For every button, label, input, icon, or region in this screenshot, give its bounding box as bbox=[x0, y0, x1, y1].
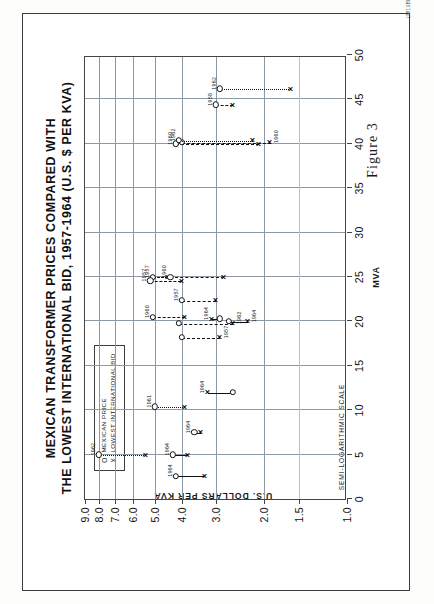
x-tick-label: 0 bbox=[353, 496, 365, 502]
y-tick-label: 7.0 bbox=[109, 507, 121, 537]
y-gridline bbox=[299, 57, 300, 499]
lowest-bid-marker: ✕ bbox=[184, 452, 191, 458]
y-tick bbox=[85, 499, 86, 504]
mexican-price-marker bbox=[178, 297, 184, 303]
lowest-bid-marker: ✕ bbox=[208, 316, 215, 322]
year-label: 1964 bbox=[199, 381, 205, 394]
mexican-price-marker bbox=[173, 473, 179, 479]
x-gridline bbox=[85, 187, 345, 188]
y-tick bbox=[347, 499, 348, 504]
x-gridline bbox=[85, 98, 345, 99]
y-tick-label: 3.0 bbox=[210, 507, 222, 537]
chart-figure: MEXICAN TRANSFORMER PRICES COMPARED WITH… bbox=[42, 14, 392, 562]
x-tick bbox=[347, 54, 352, 55]
legend-label-mexican-price: MEXICAN PRICE bbox=[100, 398, 109, 453]
x-gridline bbox=[85, 232, 345, 233]
y-tick bbox=[99, 499, 100, 504]
legend-circle-icon: O bbox=[100, 457, 109, 464]
x-tick bbox=[347, 143, 352, 144]
year-label: 1957 bbox=[141, 269, 147, 282]
lowest-bid-marker: ✕ bbox=[197, 429, 204, 435]
x-tick bbox=[347, 454, 352, 455]
x-tick-label: 15 bbox=[353, 360, 365, 372]
lowest-bid-marker: ✕ bbox=[249, 137, 256, 143]
x-tick bbox=[347, 232, 352, 233]
y-tick-label: 1.0 bbox=[341, 507, 353, 537]
lowest-bid-marker: ✕ bbox=[287, 86, 294, 92]
year-label: 1957 bbox=[173, 288, 179, 301]
year-label: 1964 bbox=[203, 307, 209, 320]
x-tick-label: 5 bbox=[353, 451, 365, 457]
year-label: 1962 bbox=[211, 77, 217, 90]
figure-page: MEXICAN TRANSFORMER PRICES COMPARED WITH… bbox=[0, 0, 434, 604]
y-tick bbox=[182, 499, 183, 504]
y-tick bbox=[115, 499, 116, 504]
pair-connector bbox=[182, 338, 220, 339]
y-gridline bbox=[264, 57, 265, 499]
x-tick bbox=[347, 409, 352, 410]
lowest-bid-marker: ✕ bbox=[142, 452, 149, 458]
lowest-bid-marker: ✕ bbox=[181, 314, 188, 320]
x-tick-label: 30 bbox=[353, 226, 365, 238]
x-tick-label: 45 bbox=[353, 93, 365, 105]
year-label: 1960 bbox=[144, 305, 150, 318]
legend-label-lowest-bid: LOWEST INTERNATIONAL BID bbox=[109, 353, 118, 452]
plate-code: (281)IBRD-3478 bbox=[406, 0, 411, 18]
y-gridline bbox=[216, 57, 217, 499]
x-tick-label: 10 bbox=[353, 404, 365, 416]
year-label: 1964 bbox=[185, 421, 191, 434]
lowest-bid-marker: ✕ bbox=[212, 297, 219, 303]
x-tick-label: 20 bbox=[353, 315, 365, 327]
x-tick bbox=[347, 365, 352, 366]
y-tick-label: 4.0 bbox=[176, 507, 188, 537]
year-label: 1964 bbox=[167, 464, 173, 477]
mexican-price-marker bbox=[167, 274, 173, 280]
lowest-bid-marker: ✕ bbox=[201, 473, 208, 479]
pair-connector bbox=[179, 324, 233, 325]
y-tick-label: 5.0 bbox=[149, 507, 161, 537]
semilog-note: SEMI-LOGARITHMIC SCALE bbox=[338, 384, 345, 490]
year-label: 1960 bbox=[161, 265, 167, 278]
x-tick bbox=[347, 320, 352, 321]
year-label: 1962 bbox=[170, 128, 176, 141]
y-tick bbox=[155, 499, 156, 504]
year-label: 1958 bbox=[207, 93, 213, 106]
x-gridline bbox=[85, 409, 345, 410]
y-axis-title: U.S. DOLLARS PER KVA bbox=[82, 491, 344, 501]
x-tick-label: 50 bbox=[353, 49, 365, 61]
y-tick-label: 2.0 bbox=[258, 507, 270, 537]
y-tick-label: 8.0 bbox=[93, 507, 105, 537]
pair-connector bbox=[99, 455, 146, 456]
legend-cross-icon: X bbox=[109, 457, 118, 464]
lowest-bid-marker: ✕ bbox=[181, 404, 188, 410]
mexican-price-marker bbox=[213, 102, 219, 108]
x-tick bbox=[347, 276, 352, 277]
x-tick-label: 35 bbox=[353, 182, 365, 194]
y-tick bbox=[264, 499, 265, 504]
x-tick-label: 40 bbox=[353, 138, 365, 150]
x-tick bbox=[347, 98, 352, 99]
x-tick-label: 25 bbox=[353, 271, 365, 283]
x-tick bbox=[347, 187, 352, 188]
year-label: 1964 bbox=[251, 310, 257, 323]
y-gridline bbox=[99, 57, 100, 499]
lowest-bid-marker: ✕ bbox=[205, 389, 212, 395]
mexican-price-marker bbox=[178, 334, 184, 340]
y-tick bbox=[133, 499, 134, 504]
plot-area: MVA U.S. DOLLARS PER KVA O MEXICAN PRICE… bbox=[84, 56, 346, 500]
mexican-price-marker bbox=[147, 277, 153, 283]
year-label: 1960 bbox=[273, 130, 279, 143]
year-label: 1961 bbox=[146, 395, 152, 408]
x-gridline bbox=[85, 365, 345, 366]
x-axis-title: MVA bbox=[371, 55, 381, 499]
y-tick bbox=[216, 499, 217, 504]
pair-connector bbox=[176, 144, 259, 145]
year-label: 1962 bbox=[90, 443, 96, 456]
year-label: 1964 bbox=[164, 443, 170, 456]
y-gridline bbox=[133, 57, 134, 499]
lowest-bid-marker: ✕ bbox=[178, 278, 185, 284]
y-tick bbox=[299, 499, 300, 504]
lowest-bid-marker: ✕ bbox=[221, 274, 228, 280]
y-tick-label: 6.0 bbox=[127, 507, 139, 537]
chart-title-line1: MEXICAN TRANSFORMER PRICES COMPARED WITH bbox=[44, 14, 58, 562]
